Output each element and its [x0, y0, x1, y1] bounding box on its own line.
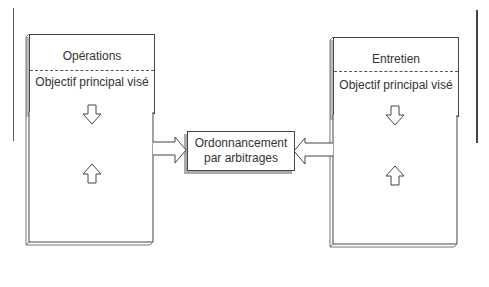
- diagram-arrows: [0, 0, 489, 287]
- right-arrow-icon: [153, 137, 186, 163]
- left-arrow-icon: [294, 138, 333, 164]
